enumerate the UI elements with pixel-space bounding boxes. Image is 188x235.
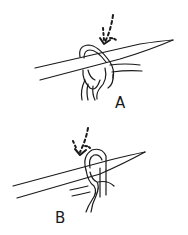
diagram-svg: A (0, 0, 188, 235)
panel-label-a: A (115, 94, 126, 112)
panel-label-b: B (55, 209, 65, 227)
knitting-diagram: A (0, 0, 188, 235)
yarn-strands-a-icon (80, 45, 142, 100)
insert-arrow-a-icon (100, 15, 116, 44)
insert-arrow-b-icon (73, 128, 90, 155)
panel-b (13, 128, 145, 212)
panel-a (35, 15, 173, 100)
needle-b-icon (13, 152, 145, 198)
